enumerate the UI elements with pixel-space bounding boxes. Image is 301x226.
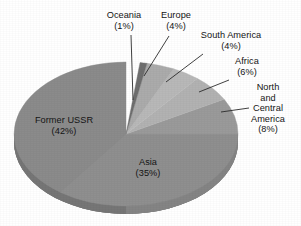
pie-label-north-america-line3: Central [240,103,296,114]
pie-label-europe-name: Europe [154,10,198,21]
pie-label-north-america-line1: North [240,82,296,93]
pie-label-south-america: South America (4%) [194,30,268,51]
pie-chart: Oceania (1%) Europe (4%) South America (… [0,0,301,226]
pie-label-africa-value: (6%) [222,67,272,78]
pie-label-europe-value: (4%) [154,21,198,32]
leader-line-oceania [131,35,133,100]
pie-label-former-ussr: Former USSR (42%) [24,115,104,136]
pie-label-asia: Asia (35%) [124,157,172,178]
pie-label-former-ussr-value: (42%) [24,126,104,137]
pie-label-africa: Africa (6%) [222,56,272,77]
pie-label-north-america-value: (8%) [240,124,296,135]
pie-label-oceania: Oceania (1%) [98,10,150,31]
pie-label-europe: Europe (4%) [154,10,198,31]
pie-label-asia-value: (35%) [124,168,172,179]
pie-label-north-america-line4: America [240,114,296,125]
pie-label-oceania-name: Oceania [98,10,150,21]
pie-label-africa-name: Africa [222,56,272,67]
pie-label-south-america-value: (4%) [194,41,268,52]
pie-label-north-and-central-america: North and Central America (8%) [240,82,296,135]
pie-label-north-america-line2: and [240,93,296,104]
pie-label-oceania-value: (1%) [98,21,150,32]
pie-label-asia-name: Asia [124,157,172,168]
pie-label-south-america-name: South America [194,30,268,41]
pie-label-former-ussr-name: Former USSR [24,115,104,126]
